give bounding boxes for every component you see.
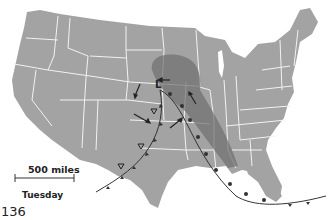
- page-number: 136: [1, 204, 26, 219]
- scale-label: 500 miles: [28, 164, 80, 175]
- low-pressure-label: L: [155, 79, 161, 90]
- weather-map: [0, 0, 333, 220]
- day-label: Tuesday: [22, 190, 63, 200]
- scale-bar: [15, 174, 74, 182]
